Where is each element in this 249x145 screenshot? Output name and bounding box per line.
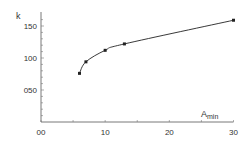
y-tick-label: 100 bbox=[24, 54, 38, 63]
data-series bbox=[78, 19, 235, 75]
data-point-marker bbox=[78, 72, 81, 75]
x-tick-label: 00 bbox=[37, 128, 46, 137]
x-tick-label: 10 bbox=[101, 128, 110, 137]
x-tick-label: 30 bbox=[229, 128, 238, 137]
data-point-marker bbox=[123, 42, 126, 45]
data-point-marker bbox=[232, 19, 235, 22]
x-axis-title: Amin bbox=[201, 109, 218, 120]
y-tick-label: 050 bbox=[24, 86, 38, 95]
series-line bbox=[80, 20, 234, 73]
line-chart: 050100150 00102030 k Amin bbox=[0, 0, 249, 145]
data-point-marker bbox=[84, 60, 87, 63]
x-tick-label: 20 bbox=[165, 128, 174, 137]
x-axis: 00102030 bbox=[37, 120, 239, 137]
data-point-marker bbox=[104, 49, 107, 52]
y-tick-label: 150 bbox=[24, 22, 38, 31]
y-axis-title: k bbox=[16, 11, 21, 21]
y-axis: 050100150 bbox=[24, 12, 44, 122]
